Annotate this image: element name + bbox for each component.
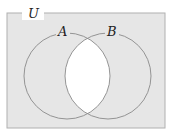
set-b-label: B: [106, 24, 117, 39]
venn-diagram: U A B: [0, 0, 173, 135]
universe-label: U: [28, 6, 40, 21]
set-a-label: A: [57, 24, 67, 39]
